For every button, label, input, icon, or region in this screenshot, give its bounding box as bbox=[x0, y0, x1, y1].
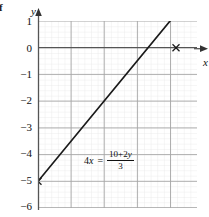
equation-numerator-terms: 10+2 bbox=[109, 149, 128, 159]
plot-area bbox=[38, 21, 197, 208]
y-axis-assembly bbox=[30, 8, 48, 212]
graph-figure: f 1 0 −1 −2 −3 −4 −5 −6 1 y x bbox=[0, 0, 209, 217]
y-tick-label-0: 0 bbox=[6, 42, 32, 54]
y-tick-label-neg1: −1 bbox=[6, 68, 32, 80]
part-label: f bbox=[0, 1, 3, 13]
equation-annotation: 4x = 10+2y 3 bbox=[84, 150, 134, 171]
y-tick-label-neg4: −4 bbox=[6, 147, 32, 159]
y-tick-label-1: 1 bbox=[6, 15, 32, 27]
x-axis-arrowhead bbox=[200, 45, 208, 52]
minor-gridlines bbox=[38, 21, 197, 208]
equation-numerator: 10+2y bbox=[107, 150, 134, 160]
equation-lhs: 4x bbox=[84, 155, 93, 166]
equation-equals-sign: = bbox=[97, 155, 103, 166]
x-axis-assembly bbox=[194, 43, 209, 57]
equation-denominator: 3 bbox=[107, 160, 134, 171]
y-tick-label-neg2: −2 bbox=[6, 94, 32, 106]
y-tick-label-neg3: −3 bbox=[6, 121, 32, 133]
x-axis-label: x bbox=[203, 56, 208, 68]
y-tick-label-neg6: −6 bbox=[6, 200, 32, 212]
equation-lhs-var: x bbox=[89, 155, 93, 166]
y-tick-label-neg5: −5 bbox=[6, 174, 32, 186]
equation-numerator-var: y bbox=[128, 149, 132, 159]
y-axis-arrowhead bbox=[35, 8, 42, 16]
equation-fraction: 10+2y 3 bbox=[107, 150, 134, 171]
